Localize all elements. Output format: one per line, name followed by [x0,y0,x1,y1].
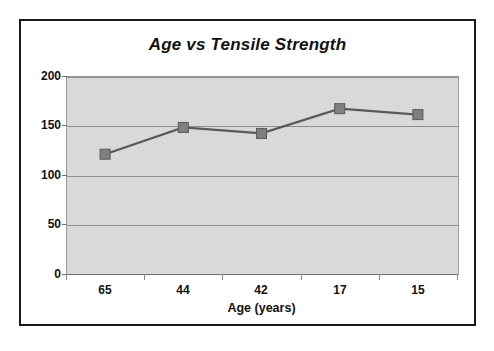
x-tick-label-15: 15 [411,283,424,297]
y-tick-label-200: 200 [19,69,61,83]
x-tick-mark-3 [301,274,302,280]
data-point-marker [335,104,345,114]
x-axis-line [66,274,458,275]
x-tick-label-17: 17 [333,283,346,297]
chart-figure: Age vs Tensile Strength 200 150 100 50 0… [19,19,476,326]
x-axis-title: Age (years) [66,301,457,315]
data-point-marker [178,122,188,132]
x-tick-mark-5 [457,274,458,280]
y-tick-label-50: 50 [19,217,61,231]
x-tick-label-42: 42 [254,283,267,297]
chart-title: Age vs Tensile Strength [21,35,474,55]
x-tick-label-44: 44 [176,283,189,297]
data-point-marker [413,110,423,120]
data-series-line [66,76,457,274]
x-tick-mark-1 [144,274,145,280]
x-tick-mark-2 [222,274,223,280]
y-axis-labels: 200 150 100 50 0 [21,76,61,274]
y-tick-label-0: 0 [19,267,61,281]
data-point-marker [257,128,267,138]
x-tick-mark-0 [66,274,67,280]
data-point-marker [100,149,110,159]
x-tick-mark-4 [379,274,380,280]
x-tick-label-65: 65 [98,283,111,297]
y-tick-label-100: 100 [19,168,61,182]
y-tick-label-150: 150 [19,118,61,132]
